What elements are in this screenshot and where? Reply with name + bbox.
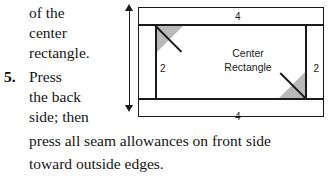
dimension-label-top: 4 [235,12,241,22]
continuation-line: rectangle. [29,44,90,62]
step-line: toward outside edges. [29,155,164,173]
continuation-line: of the [29,4,65,22]
list-number-marker: 5. [4,68,16,86]
step-line: press all seam allowances on front side [29,132,271,150]
seam-line-bottom [139,98,323,100]
dimension-label-left: 2 [160,64,166,74]
quilt-block-diagram: 4 4 2 2 Center Rectangle [122,2,327,122]
step-line: Press [29,68,62,86]
vertical-dimension-line [129,10,130,106]
center-rectangle-label-line1: Center [172,46,324,60]
center-rectangle-label-line2: Rectangle [172,60,324,74]
arrow-down-icon [125,105,133,112]
dimension-label-bottom: 4 [235,112,241,122]
continuation-line: center [29,24,67,42]
step-line: side; then [29,108,89,126]
outer-rectangle: 4 4 2 2 Center Rectangle [138,7,324,117]
arrow-up-icon [125,4,133,11]
step-line: the back [29,88,81,106]
center-rectangle-label: Center Rectangle [172,46,324,74]
